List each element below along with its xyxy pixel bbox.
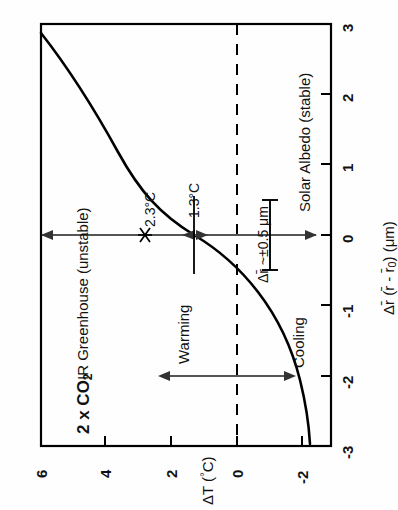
tick-label-dr-0: 0 [340, 235, 355, 243]
tick-label-dt-neg2: -2 [295, 471, 310, 484]
axis-title-dr-sub: 0 [386, 261, 398, 267]
delta-r-axis-ticks [321, 24, 331, 446]
annotation-warming: Warming [176, 305, 191, 364]
ir-greenhouse-arrowhead [41, 230, 53, 240]
corner-label-2xco2: 2 x CO2 [75, 373, 94, 434]
delta-r-axis-title: Δr̄ (r̄ - r̄0) (μm) [381, 221, 398, 315]
tick-label-dt-6: 6 [34, 470, 49, 478]
cooling-arrowhead [284, 371, 296, 381]
annotation-equilibrium-temp: 1.3°C [187, 183, 201, 218]
region-label-solar-albedo: Solar Albedo (stable) [297, 73, 312, 212]
tick-label-dr-3: 3 [340, 24, 355, 32]
tick-label-dt-0: 0 [230, 470, 245, 478]
tick-label-dt-4: 4 [98, 470, 113, 478]
annotation-greenhouse-temp: 2.3°C [143, 192, 157, 227]
tick-label-dr-1: 1 [340, 164, 355, 172]
corner-label-text: 2 x CO [74, 380, 93, 434]
warming-cooling-arrow [158, 371, 296, 381]
axis-title-dr-tail: ) (μm) [380, 221, 397, 261]
annotation-cooling: Cooling [291, 317, 306, 368]
axis-title-dt-tail: C) [199, 456, 216, 472]
solar-albedo-arrowhead [305, 230, 317, 240]
tick-label-dr-neg2: -2 [340, 376, 355, 389]
annotation-delta-r-uncertainty: Δr̄ ~±0.5 μm [256, 206, 270, 283]
delta-t-axis-ticks [41, 436, 302, 446]
tick-label-dr-neg1: -1 [340, 305, 355, 318]
axis-title-dr-main: Δr̄ (r̄ - r̄ [380, 268, 397, 316]
tick-label-dr-neg3: -3 [340, 446, 355, 459]
region-label-ir-greenhouse: IR Greenhouse (unstable) [75, 207, 90, 380]
tick-label-dt-2: 2 [164, 470, 179, 478]
axis-title-dt-main: ΔT ( [199, 477, 216, 505]
warming-arrowhead [158, 371, 170, 381]
greenhouse-asterisk-marker [138, 228, 152, 242]
degree-glyph: ° [197, 472, 210, 477]
delta-t-axis-title: ΔT (°C) [198, 456, 215, 505]
tick-label-dr-2: 2 [340, 94, 355, 102]
